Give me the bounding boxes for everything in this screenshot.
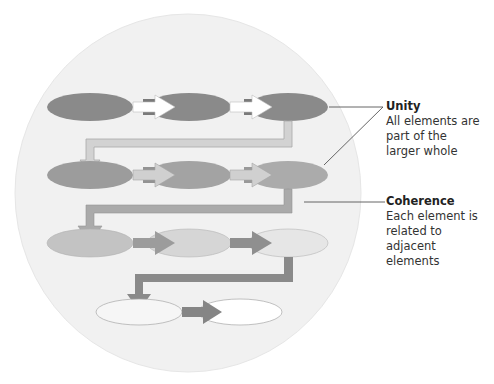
unity-desc-line-1: All elements are: [386, 114, 480, 129]
row-1: [47, 93, 328, 121]
unity-annotation: Unity All elements are part of the large…: [386, 99, 480, 159]
unity-title: Unity: [386, 99, 480, 114]
background-circle: [15, 14, 361, 372]
unity-desc-line-2: part of the: [386, 129, 480, 144]
unity-desc-line-3: larger whole: [386, 144, 480, 159]
row4-element-1: [96, 299, 182, 325]
row-3: [47, 229, 328, 257]
coherence-title: Coherence: [386, 194, 494, 209]
coherence-desc-line-2: related to adjacent: [386, 224, 494, 254]
row1-element-1: [47, 93, 133, 121]
row-2: [47, 161, 328, 189]
coherence-desc-line-3: elements: [386, 254, 494, 269]
unity-coherence-diagram: [0, 0, 494, 384]
row2-element-1: [47, 161, 133, 189]
coherence-desc-line-1: Each element is: [386, 209, 494, 224]
row3-element-1: [47, 229, 133, 257]
coherence-annotation: Coherence Each element is related to adj…: [386, 194, 494, 269]
